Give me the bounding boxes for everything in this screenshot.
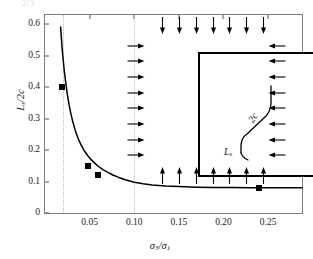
load-arrow-top bbox=[211, 17, 216, 35]
y-tick-label: 0 bbox=[35, 208, 45, 218]
load-arrow-top bbox=[160, 17, 165, 35]
load-arrow-right bbox=[268, 153, 286, 158]
figure-container: 2/3 Ls/2c σ3/σ1 00.10.20.30.40.50.6 0.05… bbox=[0, 0, 313, 259]
x-tick-label: 0.20 bbox=[215, 213, 232, 228]
y-tick-label: 0.3 bbox=[28, 114, 45, 124]
x-tick-label: 0.10 bbox=[126, 213, 143, 228]
load-arrow-top bbox=[227, 17, 232, 35]
page-artifact-text: 2/3 bbox=[22, 0, 35, 8]
inset-specimen-box: 2c Ls bbox=[198, 52, 313, 177]
load-arrow-top bbox=[177, 17, 182, 35]
data-point-marker bbox=[95, 172, 101, 178]
load-arrow-left bbox=[128, 121, 146, 126]
load-arrow-bottom bbox=[160, 166, 165, 184]
load-arrow-bottom bbox=[211, 166, 216, 184]
x-tick-label: 0.05 bbox=[81, 213, 98, 228]
load-arrow-left bbox=[128, 43, 146, 48]
y-tick-label: 0.6 bbox=[28, 20, 45, 30]
y-axis-label-tail: /2c bbox=[15, 89, 26, 102]
load-arrow-right bbox=[268, 90, 286, 95]
load-arrow-bottom bbox=[227, 166, 232, 184]
x-axis-label-sigma1-sub: 1 bbox=[167, 244, 171, 252]
x-tick-label: 0.25 bbox=[260, 213, 277, 228]
load-arrow-bottom bbox=[194, 166, 199, 184]
load-arrow-right bbox=[268, 121, 286, 126]
load-arrow-left bbox=[128, 90, 146, 95]
plot-area: 00.10.20.30.40.50.6 0.050.100.150.200.25… bbox=[44, 14, 303, 214]
load-arrow-right bbox=[268, 75, 286, 80]
crack-label-ls-sub: s bbox=[230, 150, 233, 158]
load-arrow-left bbox=[128, 106, 146, 111]
load-arrow-top bbox=[261, 17, 266, 35]
x-tick-label: 0.15 bbox=[171, 213, 188, 228]
data-point-marker bbox=[59, 84, 65, 90]
y-axis-label-sub: s bbox=[19, 102, 27, 105]
load-arrow-bottom bbox=[177, 166, 182, 184]
y-tick-label: 0.4 bbox=[28, 83, 45, 93]
load-arrow-left bbox=[128, 59, 146, 64]
load-arrow-left bbox=[128, 137, 146, 142]
load-arrow-right bbox=[268, 137, 286, 142]
load-arrow-bottom bbox=[261, 166, 266, 184]
load-arrow-bottom bbox=[244, 166, 249, 184]
data-point-marker bbox=[256, 185, 262, 191]
crack-label-ls: Ls bbox=[224, 146, 232, 158]
load-arrow-right bbox=[268, 43, 286, 48]
y-axis-label: Ls/2c bbox=[15, 89, 27, 110]
x-axis-label: σ3/σ1 bbox=[150, 240, 170, 252]
load-arrow-top bbox=[194, 17, 199, 35]
y-axis-label-main: L bbox=[15, 105, 26, 111]
y-tick-label: 0.5 bbox=[28, 51, 45, 61]
load-arrow-left bbox=[128, 153, 146, 158]
y-tick-label: 0.1 bbox=[28, 177, 45, 187]
load-arrow-top bbox=[244, 17, 249, 35]
load-arrow-left bbox=[128, 75, 146, 80]
y-tick-label: 0.2 bbox=[28, 145, 45, 155]
load-arrow-right bbox=[268, 59, 286, 64]
data-point-marker bbox=[85, 163, 91, 169]
load-arrow-right bbox=[268, 106, 286, 111]
